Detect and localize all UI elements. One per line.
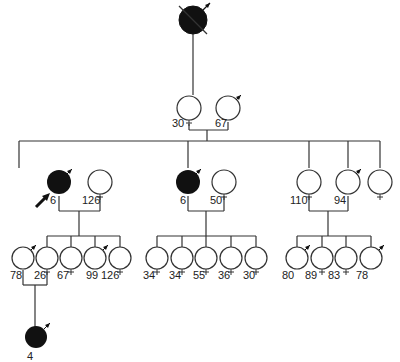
individual-gen3b-female-30: 30 (243, 247, 267, 281)
individual-gen4-affected-male: 4 (25, 323, 50, 362)
individual-gen3a-female-67: 67 (57, 247, 82, 281)
individual-gen3a-female-26: 26 (34, 247, 58, 281)
individual-gen2-female-126: 126 (82, 170, 112, 206)
label: 30 (172, 117, 184, 129)
svg-text:34: 34 (169, 269, 181, 281)
individual-gen3b-female-34b: 34 (169, 247, 193, 281)
svg-text:94: 94 (334, 194, 346, 206)
svg-text:83: 83 (328, 269, 340, 281)
svg-text:67: 67 (57, 269, 69, 281)
svg-text:89: 89 (305, 269, 317, 281)
individual-gen2-female (368, 170, 392, 200)
individual-gen3b-female-34: 34 (143, 247, 168, 281)
individual-gen3c-male-78: 78 (356, 245, 384, 281)
individual-gen3c-female-83: 83 (328, 247, 357, 281)
svg-text:126: 126 (101, 269, 119, 281)
individual-gen2-female-50: 50 (210, 170, 236, 206)
label: 67 (215, 117, 227, 129)
individual-gen0-affected-deceased-male (179, 3, 210, 34)
svg-text:50: 50 (210, 194, 222, 206)
svg-text:80: 80 (282, 269, 294, 281)
individual-gen2-female-110: 110 (290, 170, 321, 206)
individual-gen3b-female-36: 36 (218, 247, 242, 281)
individual-gen1-female: 30 (172, 96, 201, 129)
individual-gen3b-female-55: 55 (193, 247, 217, 281)
svg-text:6: 6 (50, 194, 56, 206)
svg-text:110: 110 (290, 194, 308, 206)
svg-text:55: 55 (193, 269, 205, 281)
individual-gen2-proband-affected-male: 6 (36, 169, 72, 207)
svg-text:78: 78 (10, 269, 22, 281)
individual-gen3a-female-126: 126 (101, 247, 131, 281)
svg-text:6: 6 (180, 194, 186, 206)
svg-text:36: 36 (218, 269, 230, 281)
svg-text:4: 4 (27, 350, 33, 362)
svg-text:99: 99 (86, 269, 98, 281)
svg-text:30: 30 (243, 269, 255, 281)
pedigree-chart: 30 67 6 126 6 50 110 94 (0, 0, 400, 362)
svg-text:126: 126 (82, 194, 100, 206)
svg-text:34: 34 (143, 269, 155, 281)
svg-text:26: 26 (34, 269, 46, 281)
svg-text:78: 78 (356, 269, 368, 281)
